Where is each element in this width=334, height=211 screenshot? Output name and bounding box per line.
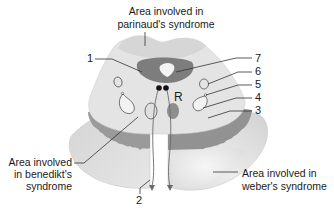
parinaud-label-line1: Area involved in: [129, 5, 204, 17]
benedikt-label-line1: Area involved: [8, 156, 72, 168]
benedikt-label-line3: syndrome: [26, 180, 72, 192]
label-4: 4: [255, 91, 261, 103]
weber-label-line1: Area involved in: [242, 167, 317, 179]
oculomotor-nucleus-right: [163, 85, 169, 91]
label-1: 1: [87, 52, 93, 64]
weber-label-line2: weber's syndrome: [241, 180, 327, 192]
right-red-nucleus: [167, 103, 179, 119]
label-5: 5: [255, 78, 261, 90]
oculomotor-nucleus-left: [156, 85, 162, 91]
red-nucleus-marker: R: [174, 90, 183, 104]
midbrain-diagram: R Area involved in parinaud's syndrome 1…: [0, 0, 334, 211]
benedikt-label-line2: in benedikt's: [14, 168, 72, 180]
parinaud-label-line2: parinaud's syndrome: [117, 18, 214, 30]
label-3: 3: [255, 104, 261, 116]
label-2: 2: [136, 194, 142, 206]
label-6: 6: [255, 65, 261, 77]
label-7: 7: [255, 52, 261, 64]
